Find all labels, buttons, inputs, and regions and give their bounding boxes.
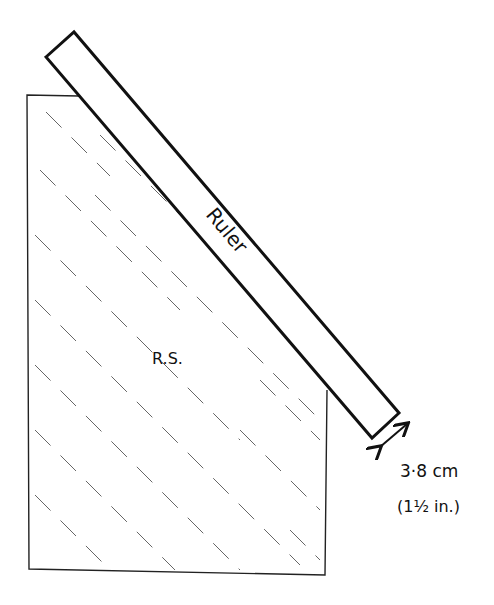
width-metric-label: 3·8 cm	[400, 461, 458, 481]
ruler: Ruler	[46, 32, 399, 438]
region-label: R.S.	[152, 349, 183, 368]
diagram-canvas: Ruler R.S. 3·8 cm (1½ in.)	[0, 0, 494, 605]
width-imperial-label: (1½ in.)	[397, 497, 460, 516]
